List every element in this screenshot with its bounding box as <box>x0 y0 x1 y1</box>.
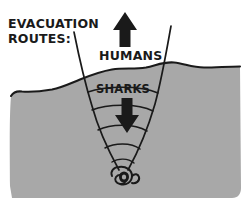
evacuation-routes-line2: ROUTES: <box>8 31 71 46</box>
humans-label: HUMANS <box>99 48 162 63</box>
up-arrow-shape <box>113 12 137 47</box>
comic-panel: EVACUATION ROUTES: HUMANS SHARKS <box>0 0 245 202</box>
whirlpool-core-highlight <box>122 174 126 179</box>
diagram-canvas: EVACUATION ROUTES: HUMANS SHARKS <box>0 0 245 202</box>
sharks-label: SHARKS <box>96 82 150 96</box>
up-arrow-icon <box>113 12 137 47</box>
evacuation-routes-line1: EVACUATION <box>8 16 99 31</box>
